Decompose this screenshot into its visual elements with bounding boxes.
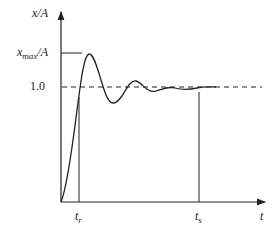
y-axis-label: x/A xyxy=(32,6,48,21)
steady-state-label: 1.0 xyxy=(30,79,45,94)
x-axis-label: t xyxy=(260,209,263,224)
xmax-label: xmax/A xyxy=(17,45,48,61)
settling-time-label: ts xyxy=(195,209,202,225)
step-response-diagram xyxy=(0,0,276,237)
response-curve xyxy=(61,54,216,202)
rise-time-label: tr xyxy=(75,209,82,225)
